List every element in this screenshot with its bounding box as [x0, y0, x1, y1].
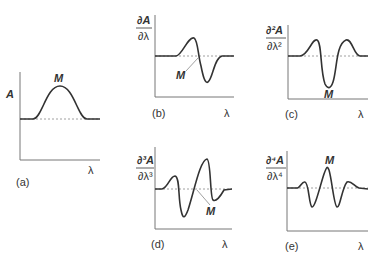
- panel-e: ∂⁴A ∂λ⁴ M λ (e): [266, 151, 368, 252]
- panel-e-ylabel-den: ∂λ⁴: [267, 170, 283, 182]
- panel-b-marker-leader: [186, 58, 198, 71]
- panel-d-marker-leader: [197, 190, 210, 205]
- panel-c-xlabel: λ: [358, 108, 364, 120]
- panel-a: A M λ (a): [5, 72, 100, 188]
- panel-d-ylabel-num: ∂³A: [137, 154, 154, 166]
- panel-d-marker: M: [206, 205, 216, 217]
- panel-b-ylabel-den: ∂λ: [138, 30, 149, 42]
- panel-a-marker: M: [54, 72, 64, 84]
- panel-b: ∂A ∂λ M λ (b): [136, 14, 234, 119]
- panel-a-curve: [20, 86, 100, 119]
- panel-e-xlabel: λ: [358, 240, 364, 252]
- panel-a-label: (a): [16, 176, 29, 188]
- panel-c-label: (c): [285, 108, 298, 120]
- panel-d-label: (d): [151, 238, 164, 250]
- panel-c: ∂²A ∂λ² M λ (c): [266, 24, 368, 120]
- panel-d-ylabel-den: ∂λ³: [138, 170, 153, 182]
- panel-d-curve: [155, 159, 232, 217]
- panel-e-ylabel-num: ∂⁴A: [266, 154, 284, 166]
- derivative-spectra-figure: A M λ (a) ∂A ∂λ M λ (b) ∂²A ∂λ² M λ (c) …: [0, 0, 378, 260]
- panel-d-xlabel: λ: [222, 238, 228, 250]
- panel-c-ylabel-num: ∂²A: [266, 24, 283, 36]
- panel-c-marker: M: [324, 88, 334, 100]
- panel-e-curve: [287, 167, 368, 207]
- panel-e-label: (e): [285, 240, 298, 252]
- panel-c-ylabel-den: ∂λ²: [267, 40, 282, 52]
- panel-e-marker: M: [325, 154, 335, 166]
- panel-b-xlabel: λ: [224, 107, 230, 119]
- panel-c-curve: [288, 40, 368, 88]
- panel-b-curve: [155, 38, 234, 82]
- panel-a-ylabel: A: [5, 88, 14, 100]
- panel-d: ∂³A ∂λ³ M λ (d): [136, 147, 232, 250]
- panel-b-label: (b): [152, 107, 165, 119]
- panel-a-xlabel: λ: [88, 164, 94, 176]
- panel-b-ylabel-num: ∂A: [137, 14, 150, 26]
- panel-b-marker: M: [176, 69, 186, 81]
